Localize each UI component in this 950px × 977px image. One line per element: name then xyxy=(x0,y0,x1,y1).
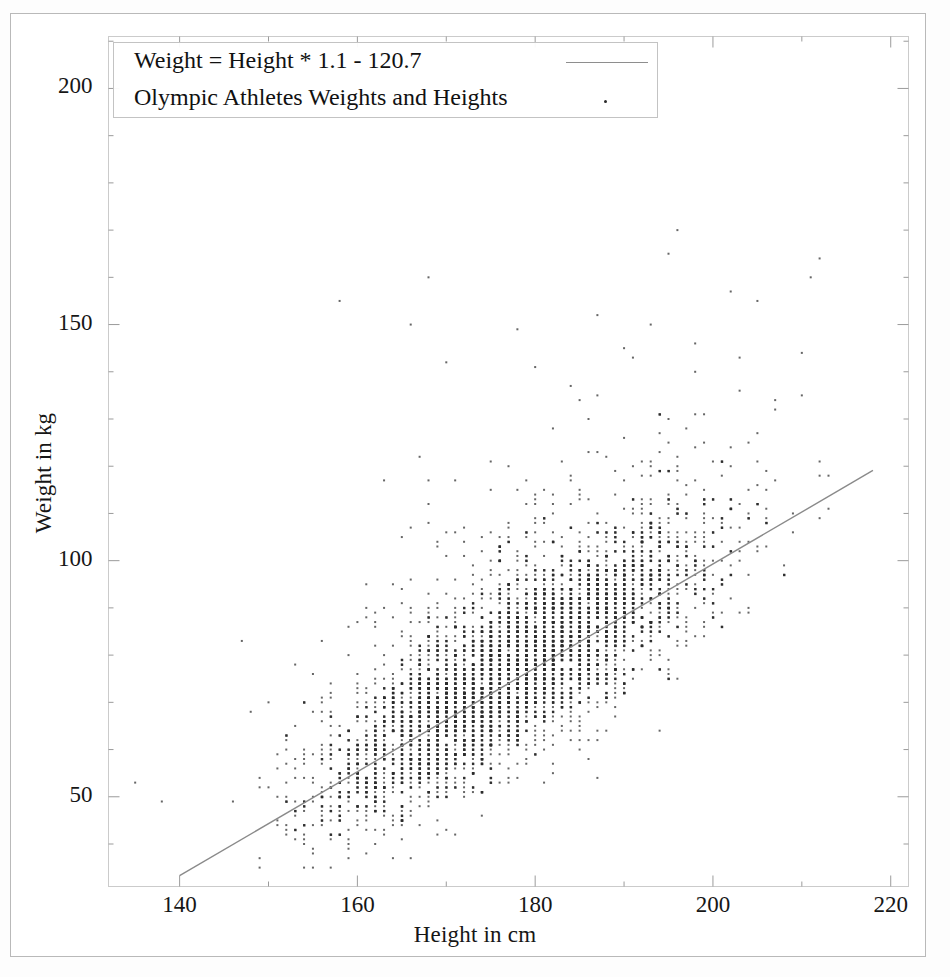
axis-ticks xyxy=(109,37,909,887)
y-tick-label: 150 xyxy=(13,310,93,336)
plot-frame xyxy=(109,37,909,887)
legend-key-dot-swatch xyxy=(556,81,648,119)
legend-entry-label: Olympic Athletes Weights and Heights xyxy=(134,84,508,111)
legend-entry-label: Weight = Height * 1.1 - 120.7 xyxy=(134,47,422,74)
legend-entry-scatter[interactable]: Olympic Athletes Weights and Heights xyxy=(126,81,647,119)
regression-line xyxy=(180,470,873,875)
x-tick-label: 200 xyxy=(673,892,753,918)
y-tick-label: 50 xyxy=(13,782,93,808)
x-tick-label: 180 xyxy=(495,892,575,918)
x-tick-label: 140 xyxy=(140,892,220,918)
y-tick-label: 100 xyxy=(13,546,93,572)
x-axis-title: Height in cm xyxy=(0,922,950,948)
figure-page: Height in cm Weight in kg 14016018020022… xyxy=(0,0,950,977)
plot-canvas xyxy=(0,0,950,977)
scatter-plot-figure: Height in cm Weight in kg 14016018020022… xyxy=(0,0,950,977)
line-swatch-icon xyxy=(566,62,648,63)
legend-key-line-swatch xyxy=(556,44,648,82)
x-tick-label: 160 xyxy=(317,892,397,918)
legend[interactable]: Weight = Height * 1.1 - 120.7 Olympic At… xyxy=(113,42,658,118)
scatter-points xyxy=(134,229,829,869)
point-swatch-icon xyxy=(604,100,607,103)
x-tick-label: 220 xyxy=(851,892,931,918)
legend-entry-fit-line[interactable]: Weight = Height * 1.1 - 120.7 xyxy=(126,44,647,82)
y-tick-label: 200 xyxy=(13,73,93,99)
